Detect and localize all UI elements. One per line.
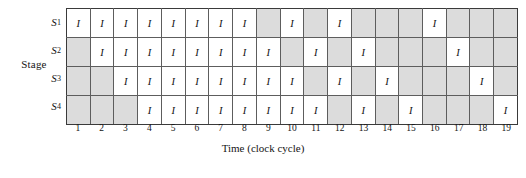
clock-cycle-tick-17: 17 [447,120,471,136]
pipeline-reservation-table-figure: Stage S1S2S3S4 IIIIIIIIIIIIIIIIIIIIIIIII… [0,0,526,178]
reservation-cell-idle [446,9,470,38]
clock-cycle-tick-19: 19 [494,120,518,136]
reservation-cell-idle [375,9,399,38]
reservation-cell-busy: I [185,38,209,67]
stage-label-s4: S4 [40,92,64,120]
reservation-cell-busy: I [90,38,114,67]
reservation-cell-busy: I [161,9,185,38]
reservation-cell-busy: I [280,67,304,96]
stage-label-subscript: 1 [57,18,61,27]
reservation-cell-busy: I [446,38,470,67]
clock-cycle-tick-8: 8 [233,120,257,136]
clock-cycle-tick-13: 13 [352,120,376,136]
clock-cycle-tick-4: 4 [137,120,161,136]
reservation-cell-idle [423,38,447,67]
reservation-cell-busy: I [114,9,138,38]
reservation-cell-busy: I [67,9,91,38]
reservation-cell-busy: I [114,67,138,96]
reservation-grid-body: IIIIIIIIIIIIIIIIIIIIIIIIIIIIIIIIIIIIIIII… [67,9,518,125]
reservation-cell-idle [280,38,304,67]
reservation-cell-idle [399,67,423,96]
clock-cycle-tick-14: 14 [375,120,399,136]
reservation-cell-busy: I [138,38,162,67]
reservation-cell-idle [399,38,423,67]
reservation-cell-idle [351,67,375,96]
reservation-cell-idle [470,38,494,67]
reservation-cell-idle [375,38,399,67]
reservation-cell-idle [494,9,518,38]
clock-cycle-tick-6: 6 [185,120,209,136]
clock-cycle-tick-18: 18 [471,120,495,136]
table-row: IIIIIIIIIII [67,38,518,67]
stage-label-subscript: 3 [57,74,61,83]
clock-cycle-tick-11: 11 [304,120,328,136]
reservation-cell-busy: I [185,9,209,38]
clock-cycle-tick-10: 10 [280,120,304,136]
clock-cycle-tick-1: 1 [66,120,90,136]
reservation-cell-busy: I [280,9,304,38]
reservation-cell-busy: I [351,38,375,67]
clock-cycle-tick-9: 9 [256,120,280,136]
reservation-cell-busy: I [256,38,280,67]
reservation-cell-idle [67,67,91,96]
reservation-cell-busy: I [161,67,185,96]
clock-cycle-tick-16: 16 [423,120,447,136]
reservation-cell-busy: I [209,67,233,96]
reservation-cell-busy: I [470,67,494,96]
stage-label-text: S [51,16,57,28]
clock-cycle-tick-3: 3 [114,120,138,136]
reservation-grid-table: IIIIIIIIIIIIIIIIIIIIIIIIIIIIIIIIIIIIIIII… [66,8,518,125]
stage-label-s1: S1 [40,8,64,36]
reservation-cell-idle [494,38,518,67]
reservation-cell-busy: I [304,38,328,67]
stage-label-text: S [51,44,57,56]
reservation-cell-busy: I [209,38,233,67]
reservation-cell-busy: I [233,38,257,67]
reservation-cell-idle [423,67,447,96]
stage-label-subscript: 4 [57,102,61,111]
reservation-cell-idle [304,67,328,96]
stage-label-text: S [51,100,57,112]
reservation-cell-idle [446,67,470,96]
stage-label-subscript: 2 [57,46,61,55]
reservation-cell-busy: I [375,67,399,96]
reservation-cell-idle [304,9,328,38]
reservation-cell-busy: I [423,9,447,38]
reservation-cell-busy: I [233,67,257,96]
reservation-cell-busy: I [233,9,257,38]
reservation-cell-idle [351,9,375,38]
clock-cycle-tick-2: 2 [90,120,114,136]
clock-cycle-tick-12: 12 [328,120,352,136]
reservation-cell-busy: I [138,67,162,96]
reservation-cell-busy: I [209,9,233,38]
reservation-cell-busy: I [90,9,114,38]
reservation-cell-busy: I [328,9,352,38]
reservation-cell-idle [399,9,423,38]
reservation-cell-busy: I [114,38,138,67]
stage-row-labels: S1S2S3S4 [40,8,64,120]
reservation-cell-busy: I [256,67,280,96]
stage-label-s2: S2 [40,36,64,64]
x-axis-title: Time (clock cycle) [0,142,526,154]
reservation-cell-idle [256,9,280,38]
reservation-cell-idle [90,67,114,96]
reservation-cell-idle [470,9,494,38]
reservation-cell-busy: I [328,67,352,96]
reservation-cell-busy: I [185,67,209,96]
reservation-cell-idle [328,38,352,67]
stage-label-s3: S3 [40,64,64,92]
table-row: IIIIIIIIIII [67,9,518,38]
reservation-cell-idle [67,38,91,67]
clock-cycle-tick-7: 7 [209,120,233,136]
reservation-cell-busy: I [161,38,185,67]
stage-label-text: S [51,72,57,84]
clock-cycle-tick-15: 15 [399,120,423,136]
reservation-cell-idle [494,67,518,96]
reservation-grid: IIIIIIIIIIIIIIIIIIIIIIIIIIIIIIIIIIIIIIII… [66,8,518,120]
table-row: IIIIIIIIIII [67,67,518,96]
clock-cycle-tick-labels: 12345678910111213141516171819 [66,120,518,136]
reservation-cell-busy: I [138,9,162,38]
clock-cycle-tick-5: 5 [161,120,185,136]
